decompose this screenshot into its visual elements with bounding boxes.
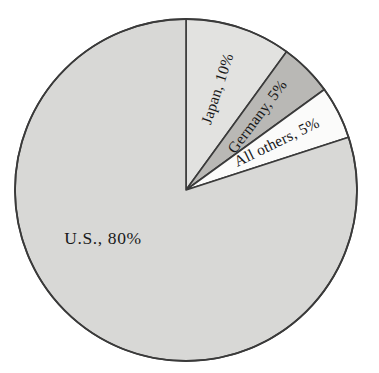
- pie-chart-svg: Japan, 10% Germany, 5% All others, 5% U.…: [0, 0, 379, 373]
- pie-label-us: U.S., 80%: [64, 228, 141, 248]
- pie-chart-figure: Japan, 10% Germany, 5% All others, 5% U.…: [0, 0, 379, 373]
- pie-slices: [15, 19, 357, 361]
